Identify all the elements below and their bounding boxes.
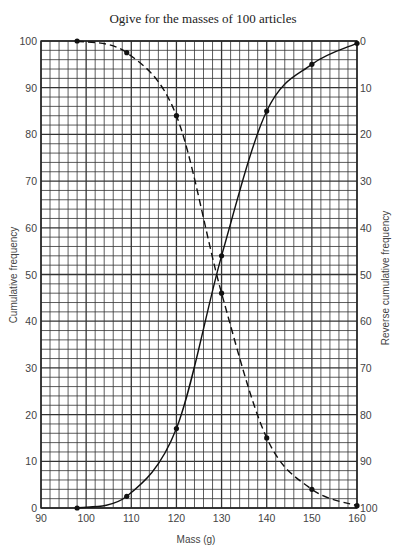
svg-text:70: 70: [360, 362, 372, 374]
chart-title: Ogive for the masses of 100 articles: [109, 11, 296, 26]
svg-text:20: 20: [360, 128, 372, 140]
svg-text:0: 0: [360, 35, 366, 47]
svg-text:10: 10: [360, 82, 372, 94]
svg-text:40: 40: [360, 222, 372, 234]
svg-text:50: 50: [25, 269, 37, 281]
grid: [41, 41, 357, 508]
svg-text:20: 20: [25, 409, 37, 421]
x-axis-label: Mass (g): [177, 534, 216, 545]
svg-text:30: 30: [360, 175, 372, 187]
y-axis-label: Cumulative frequency: [8, 227, 19, 324]
svg-text:80: 80: [360, 409, 372, 421]
svg-text:10: 10: [25, 455, 37, 467]
svg-text:120: 120: [168, 512, 186, 524]
svg-text:110: 110: [123, 512, 140, 524]
x-axis-ticks: 90100110120130140150160: [35, 512, 366, 524]
svg-text:70: 70: [25, 175, 37, 187]
svg-text:40: 40: [25, 315, 37, 327]
svg-text:160: 160: [348, 512, 366, 524]
svg-text:80: 80: [25, 128, 37, 140]
svg-text:90: 90: [25, 82, 37, 94]
y2-axis-ticks: 0102030405060708090100: [360, 35, 378, 514]
svg-text:60: 60: [360, 315, 372, 327]
svg-text:130: 130: [213, 512, 231, 524]
svg-text:50: 50: [360, 269, 372, 281]
y-axis-ticks: 0102030405060708090100: [19, 35, 37, 514]
svg-text:100: 100: [77, 512, 95, 524]
y2-axis-label: Reverse cumulative frequency: [380, 211, 391, 346]
svg-text:60: 60: [25, 222, 37, 234]
svg-text:30: 30: [25, 362, 37, 374]
ogive-chart: Ogive for the masses of 100 articles 010…: [0, 0, 406, 558]
svg-text:90: 90: [35, 512, 47, 524]
svg-text:150: 150: [303, 512, 321, 524]
svg-text:90: 90: [360, 455, 372, 467]
svg-text:140: 140: [258, 512, 276, 524]
svg-text:100: 100: [19, 35, 37, 47]
